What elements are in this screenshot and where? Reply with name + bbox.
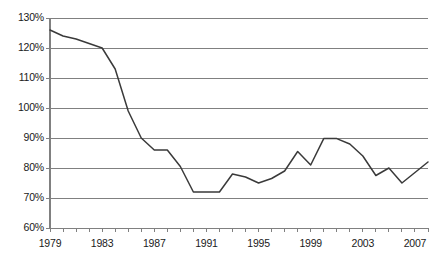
y-axis-tick-label: 130% — [2, 11, 44, 23]
y-axis-tick-label: 80% — [2, 161, 44, 173]
y-axis-tick-label: 90% — [2, 131, 44, 143]
chart-canvas — [0, 0, 444, 268]
y-axis-tick-label: 100% — [2, 101, 44, 113]
x-axis-tick-label: 2003 — [343, 237, 383, 249]
x-axis-tick-label: 1999 — [291, 237, 331, 249]
y-axis-tick-label: 70% — [2, 191, 44, 203]
y-axis-tick-label: 120% — [2, 41, 44, 53]
x-axis-tick-label: 1995 — [239, 237, 279, 249]
x-axis-tick-label: 1983 — [82, 237, 122, 249]
x-axis-tick-label: 2007 — [395, 237, 435, 249]
line-chart: 130%120%110%100%90%80%70%60% 19791983198… — [0, 0, 444, 268]
x-axis-tick-label: 1987 — [134, 237, 174, 249]
y-axis-tick-label: 60% — [2, 221, 44, 233]
x-axis-ticks — [50, 228, 428, 232]
y-axis-tick-label: 110% — [2, 71, 44, 83]
x-axis-tick-label: 1979 — [30, 237, 70, 249]
x-axis-tick-label: 1991 — [186, 237, 226, 249]
gridlines — [50, 18, 428, 228]
